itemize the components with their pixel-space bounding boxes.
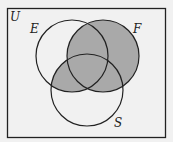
universe-label: U: [10, 10, 21, 24]
venn-diagram: U E F S: [0, 0, 173, 142]
set-f-label: F: [132, 22, 142, 36]
set-e-label: E: [29, 22, 39, 36]
set-s-label: S: [114, 116, 122, 130]
